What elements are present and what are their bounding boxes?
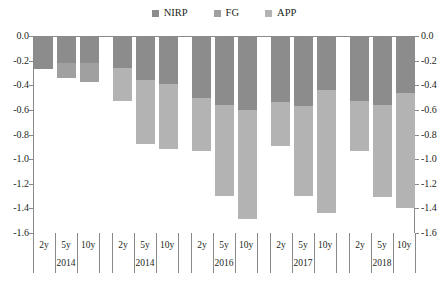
bar-2018-5y[interactable] <box>373 36 392 197</box>
x-axis-maturity-label: 2y <box>349 241 371 251</box>
legend-label-app: APP <box>277 8 296 19</box>
bar-segment-app <box>159 84 178 149</box>
x-axis-maturity-label: 2y <box>112 241 134 251</box>
x-axis-group-2016-2: 2y5y10y2016 <box>191 233 257 286</box>
bar-segment-nirp <box>80 36 99 63</box>
bar-2014-2y[interactable] <box>34 36 53 69</box>
y-axis-label-left: 0.0 <box>17 31 30 41</box>
bar-segment-nirp <box>215 36 234 105</box>
x-axis-maturity-label: 5y <box>55 241 77 251</box>
bar-segment-app <box>113 68 132 101</box>
x-axis-maturity-label: 5y <box>371 241 393 251</box>
bar-2017-5y[interactable] <box>294 36 313 196</box>
y-axis-label-right: -1.4 <box>421 203 437 213</box>
bar-2017-10y[interactable] <box>317 36 336 213</box>
x-axis-maturity-label: 2y <box>191 241 213 251</box>
bar-2014-5y[interactable] <box>136 36 155 144</box>
y-axis-label-left: -1.2 <box>13 179 29 189</box>
bar-segment-nirp <box>57 36 76 63</box>
x-axis-group-2014-0: 2y5y10y2014 <box>33 233 99 286</box>
top-axis-tick <box>89 36 90 40</box>
x-axis-maturity-label: 10y <box>393 241 415 251</box>
bar-2014-10y[interactable] <box>80 36 99 82</box>
bar-segment-app <box>238 110 257 220</box>
y-axis-label-left: -0.4 <box>13 80 29 90</box>
top-axis-tick <box>405 36 406 40</box>
bar-2014-10y[interactable] <box>159 36 178 149</box>
x-axis-maturity-label: 10y <box>156 241 178 251</box>
bar-segment-nirp <box>159 36 178 84</box>
top-axis-tick <box>201 36 202 40</box>
top-axis-tick <box>145 36 146 40</box>
bar-2016-2y[interactable] <box>192 36 211 151</box>
y-axis-label-left: -0.8 <box>13 130 29 140</box>
bar-segment-fg <box>57 63 76 78</box>
x-axis-group-2014-1: 2y5y10y2014 <box>112 233 178 286</box>
top-axis-tick <box>326 36 327 40</box>
top-axis-tick <box>168 36 169 40</box>
bar-2018-10y[interactable] <box>396 36 415 208</box>
y-axis-label-left: -0.6 <box>13 105 29 115</box>
bar-segment-nirp <box>373 36 392 105</box>
bar-segment-app <box>373 105 392 197</box>
y-axis-label-right: -1.2 <box>421 179 437 189</box>
bar-segment-nirp <box>136 36 155 80</box>
bar-2014-5y[interactable] <box>57 36 76 78</box>
y-axis-label-right: 0.0 <box>421 31 434 41</box>
legend-swatch-app <box>265 10 272 17</box>
y-axis-label-right: -1.0 <box>421 154 437 164</box>
legend-swatch-nirp <box>152 10 159 17</box>
top-axis-tick <box>303 36 304 40</box>
bar-segment-nirp <box>350 36 369 101</box>
x-axis-group-2017-3: 2y5y10y2017 <box>270 233 336 286</box>
bar-segment-app <box>294 106 313 196</box>
bar-2016-5y[interactable] <box>215 36 234 196</box>
y-tick-right <box>415 85 419 86</box>
bar-segment-nirp <box>317 36 336 90</box>
x-axis-maturity-label: 2y <box>33 241 55 251</box>
x-axis-year-label: 2016 <box>191 259 257 269</box>
y-tick-right <box>415 159 419 160</box>
x-axis-divider <box>415 233 416 273</box>
x-axis-maturity-label: 10y <box>235 241 257 251</box>
y-axis-label-right: -0.2 <box>421 56 437 66</box>
y-axis-label-right: -0.8 <box>421 130 437 140</box>
legend-label-fg: FG <box>226 8 239 19</box>
plot-area <box>33 36 415 233</box>
x-axis-divider <box>178 233 179 273</box>
bar-2017-2y[interactable] <box>271 36 290 146</box>
bar-2018-2y[interactable] <box>350 36 369 151</box>
y-axis-label-right: -0.6 <box>421 105 437 115</box>
bar-segment-nirp <box>396 36 415 93</box>
bar-segment-fg <box>80 63 99 81</box>
y-tick-right <box>415 36 419 37</box>
bar-segment-app <box>317 90 336 213</box>
legend-item-nirp: NIRP <box>152 8 188 19</box>
chart-legend: NIRP FG APP <box>0 6 448 20</box>
top-axis-tick <box>382 36 383 40</box>
top-axis-tick <box>66 36 67 40</box>
x-axis-year-label: 2014 <box>112 259 178 269</box>
bar-segment-app <box>396 93 415 209</box>
y-axis-label-right: -0.4 <box>421 80 437 90</box>
bar-segment-app <box>215 105 234 196</box>
y-tick-right <box>415 135 419 136</box>
bar-segment-app <box>271 102 290 145</box>
x-axis-divider <box>336 233 337 273</box>
bar-segment-nirp <box>271 36 290 102</box>
bar-2014-2y[interactable] <box>113 36 132 101</box>
legend-item-app: APP <box>265 8 296 19</box>
x-axis-group-2018-4: 2y5y10y2018 <box>349 233 415 286</box>
x-axis: 2y5y10y20142y5y10y20142y5y10y20162y5y10y… <box>0 233 448 286</box>
legend-label-nirp: NIRP <box>164 8 188 19</box>
y-axis-label-left: -1.0 <box>13 154 29 164</box>
legend-item-fg: FG <box>214 8 239 19</box>
top-axis-tick <box>280 36 281 40</box>
y-axis-label-left: -1.4 <box>13 203 29 213</box>
bar-segment-app <box>192 98 211 151</box>
bar-2016-10y[interactable] <box>238 36 257 219</box>
y-axis-label-left: -0.2 <box>13 56 29 66</box>
x-axis-year-label: 2018 <box>349 259 415 269</box>
x-axis-maturity-label: 10y <box>314 241 336 251</box>
bar-segment-nirp <box>34 36 53 69</box>
